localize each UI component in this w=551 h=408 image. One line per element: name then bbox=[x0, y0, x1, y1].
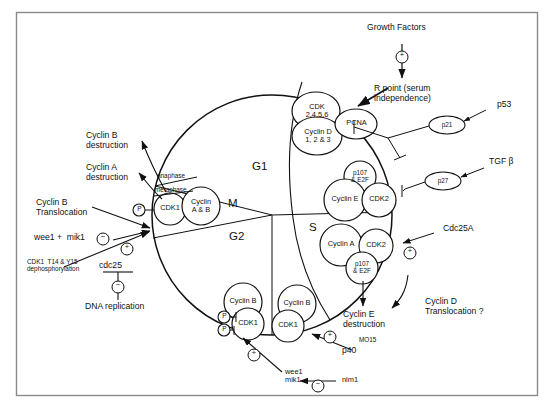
inhibit-bar-p21-b bbox=[394, 155, 406, 160]
label-cdk2-g1s: CDK2 bbox=[360, 195, 398, 203]
inhibit-p27-line bbox=[403, 182, 425, 191]
plus-glyph-cdc25a: + bbox=[404, 247, 416, 255]
figure-canvas: G1 S G2 M anaphase metaphase CDK2,4,5,6 … bbox=[0, 0, 551, 408]
label-cdk1-s: CDK1 bbox=[269, 321, 307, 329]
arrow-cdc25a bbox=[403, 233, 434, 243]
label-cdk2-s: CDK2 bbox=[357, 241, 395, 249]
phase-label-s: S bbox=[309, 221, 317, 234]
label-cyclin-d: Cyclin D1, 2 & 3 bbox=[294, 128, 342, 145]
label-cyclin-ab-m: CyclinA & B bbox=[182, 198, 220, 215]
label-cdk1-g2: CDK1 bbox=[229, 319, 267, 327]
label-cdc25a: Cdc25A bbox=[443, 224, 474, 234]
label-p40: p40 bbox=[342, 346, 356, 356]
arrow-tgfb-to-p27 bbox=[461, 168, 484, 177]
label-cyclin-a-destruction: Cyclin Adestruction bbox=[86, 163, 128, 182]
plus-glyph-wee1-bottom: + bbox=[248, 349, 260, 357]
inhibit-p21-branch bbox=[354, 126, 429, 158]
arrow-p53-to-p21 bbox=[464, 110, 486, 121]
phase-label-g1: G1 bbox=[252, 160, 267, 173]
label-tgfb: TGF β bbox=[489, 157, 514, 167]
plus-glyph-cdc25: + bbox=[121, 243, 133, 251]
phase-label-g2: G2 bbox=[229, 230, 244, 243]
minus-glyph-dna-replication: − bbox=[112, 281, 124, 289]
label-mo15: MO15 bbox=[359, 336, 376, 343]
label-cyclin-b-destruction: Cyclin Bdestruction bbox=[86, 131, 128, 150]
label-cdk-2456: CDK2,4,5,6 bbox=[296, 103, 338, 120]
minus-glyph-nim1: − bbox=[312, 380, 324, 388]
label-p107-e2f-s: p107& E2F bbox=[347, 260, 377, 274]
label-cyclin-d-translocation: Cyclin DTranslocation ? bbox=[425, 297, 483, 316]
phospho-glyph-m: P bbox=[134, 205, 145, 212]
label-cyclin-b-translocation: Cyclin BTranslocation bbox=[36, 198, 87, 217]
label-p21: p21 bbox=[432, 121, 462, 128]
plus-glyph-growth-factors: + bbox=[396, 51, 408, 59]
label-wee1-mik1-left: wee1 + mik1 bbox=[34, 233, 85, 243]
marker-metaphase: metaphase bbox=[155, 186, 187, 193]
label-wee1-mik1-bottom: wee1mik1 bbox=[285, 368, 303, 385]
label-cyclin-b-s: Cyclin B bbox=[274, 299, 320, 307]
label-cyclin-e-destruction: Cyclin Edestruction bbox=[343, 310, 385, 329]
label-r-point: R point (serumindependence) bbox=[374, 84, 431, 103]
label-dna-replication: DNA replication bbox=[85, 302, 144, 312]
phase-label-m: M bbox=[228, 197, 238, 210]
label-cdk1-dephosphorylation: CDK1 T14 & Y15dephosphorylation bbox=[27, 258, 79, 272]
phospho-glyph-g2-b: P bbox=[219, 325, 230, 332]
plus-glyph-p40: + bbox=[324, 331, 336, 339]
label-pcna: PCNA bbox=[336, 119, 377, 127]
label-cdc25: cdc25 bbox=[99, 261, 122, 271]
phospho-glyph-g2-a: P bbox=[219, 312, 230, 319]
label-p27: p27 bbox=[428, 177, 458, 184]
label-p107-e2f-g1: p107& E2F bbox=[345, 169, 375, 183]
label-p53: p53 bbox=[497, 100, 511, 110]
label-nim1: nim1 bbox=[342, 376, 358, 384]
label-growth-factors: Growth Factors bbox=[367, 23, 426, 33]
label-cyclin-b-g2: Cyclin B bbox=[220, 297, 266, 305]
arrow-cyclin-d-translocation bbox=[392, 275, 408, 308]
minus-glyph-wee1-left: − bbox=[97, 233, 109, 241]
marker-anaphase: anaphase bbox=[157, 172, 185, 179]
